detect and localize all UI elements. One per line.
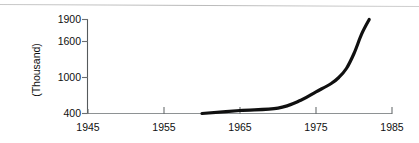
data-series-line (202, 20, 369, 114)
x-tick-label-1975: 1975 (304, 121, 328, 133)
x-tick-label-1945: 1945 (76, 121, 100, 133)
x-tick-label-1985: 1985 (380, 121, 404, 133)
y-tick-label-1600: 1600 (58, 35, 82, 47)
line-chart: (Thousand) 1900 1600 1000 400 1945 1955 … (0, 0, 419, 143)
y-tick-label-1900: 1900 (58, 13, 82, 25)
y-tick-label-1000: 1000 (58, 71, 82, 83)
x-tick-label-1955: 1955 (152, 121, 176, 133)
y-tick-label-400: 400 (63, 107, 81, 119)
y-axis-label: (Thousand) (30, 43, 42, 97)
x-tick-label-1965: 1965 (228, 121, 252, 133)
chart-figure: (Thousand) 1900 1600 1000 400 1945 1955 … (0, 0, 419, 143)
